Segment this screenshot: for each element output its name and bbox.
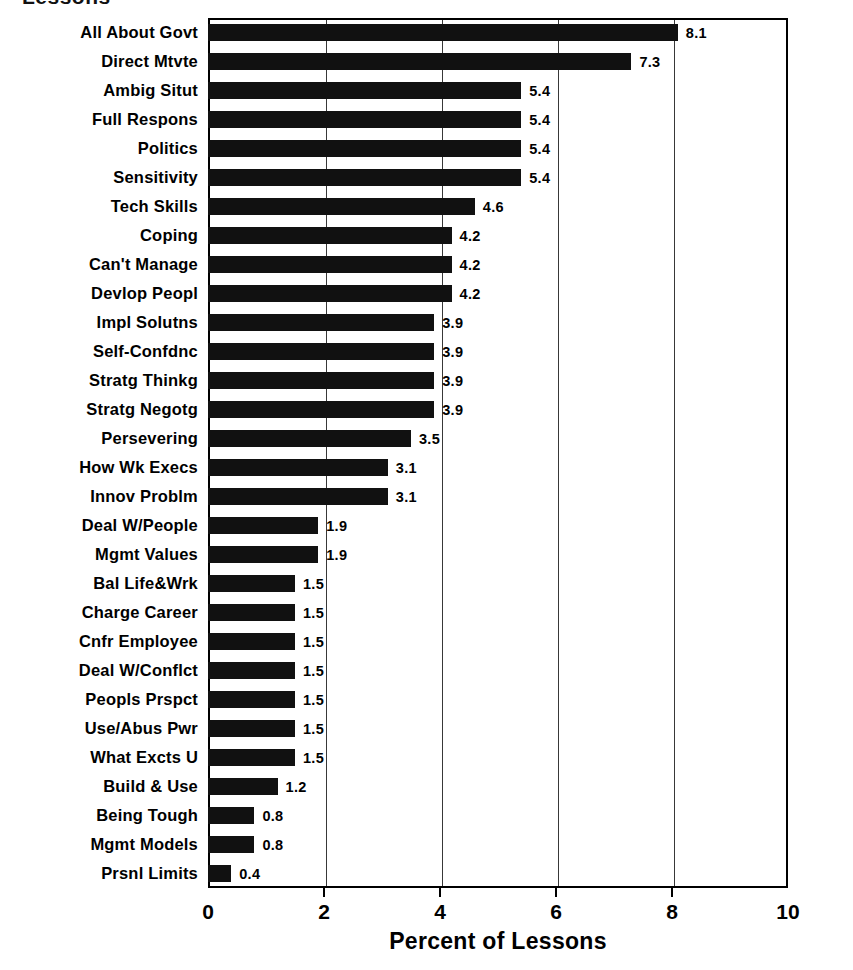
bar-row: Tech Skills4.6: [0, 192, 853, 221]
category-label: Mgmt Models: [0, 835, 198, 854]
bar-track: 1.5: [208, 569, 788, 598]
bar-track: 4.6: [208, 192, 788, 221]
bar-row: Impl Solutns3.9: [0, 308, 853, 337]
category-label: Build & Use: [0, 777, 198, 796]
bar-track: 3.5: [208, 424, 788, 453]
x-tick-label: 4: [434, 900, 446, 924]
bar-row: Sensitivity5.4: [0, 163, 853, 192]
bar-track: 8.1: [208, 18, 788, 47]
bar-track: 3.9: [208, 366, 788, 395]
bar-value-label: 8.1: [686, 25, 707, 41]
bar-value-label: 0.8: [262, 808, 283, 824]
bar: [208, 691, 295, 709]
bar: [208, 720, 295, 738]
bar-value-label: 5.4: [529, 170, 550, 186]
bar-track: 4.2: [208, 250, 788, 279]
bar-row: Charge Career1.5: [0, 598, 853, 627]
bar-track: 5.4: [208, 134, 788, 163]
bar-value-label: 5.4: [529, 83, 550, 99]
bar: [208, 285, 452, 303]
bar-value-label: 5.4: [529, 141, 550, 157]
bar: [208, 488, 388, 506]
bar-row: Deal W/People1.9: [0, 511, 853, 540]
x-tick-mark: [555, 888, 557, 897]
bar: [208, 807, 254, 825]
bar-value-label: 1.5: [303, 663, 324, 679]
bar-value-label: 1.5: [303, 605, 324, 621]
bar: [208, 140, 521, 158]
bar-value-label: 1.9: [326, 547, 347, 563]
category-label: Use/Abus Pwr: [0, 719, 198, 738]
bar-value-label: 1.5: [303, 750, 324, 766]
category-label: All About Govt: [0, 23, 198, 42]
bar: [208, 343, 434, 361]
bar-value-label: 4.6: [483, 199, 504, 215]
bar-value-label: 1.5: [303, 576, 324, 592]
category-label: Devlop Peopl: [0, 284, 198, 303]
category-label: Can't Manage: [0, 255, 198, 274]
x-tick-mark: [439, 888, 441, 897]
x-axis-title: Percent of Lessons: [208, 928, 788, 955]
bar-value-label: 1.5: [303, 721, 324, 737]
bar-track: 4.2: [208, 279, 788, 308]
bar-value-label: 1.2: [286, 779, 307, 795]
bar-row: Peopls Prspct1.5: [0, 685, 853, 714]
category-label: Full Respons: [0, 110, 198, 129]
bar-track: 1.5: [208, 598, 788, 627]
bar: [208, 604, 295, 622]
bar: [208, 372, 434, 390]
bar: [208, 633, 295, 651]
x-tick-mark: [671, 888, 673, 897]
bar: [208, 227, 452, 245]
bar-value-label: 3.9: [442, 344, 463, 360]
bar: [208, 517, 318, 535]
bar-value-label: 4.2: [460, 257, 481, 273]
category-label: Being Tough: [0, 806, 198, 825]
bar-value-label: 3.9: [442, 315, 463, 331]
bar: [208, 82, 521, 100]
bar-track: 1.5: [208, 743, 788, 772]
bar-row: Bal Life&Wrk1.5: [0, 569, 853, 598]
x-tick-label: 6: [550, 900, 562, 924]
bar-value-label: 3.5: [419, 431, 440, 447]
category-label: Direct Mtvte: [0, 52, 198, 71]
bar: [208, 53, 631, 71]
bar-row: Build & Use1.2: [0, 772, 853, 801]
bar-track: 5.4: [208, 163, 788, 192]
bar-row: Ambig Situt5.4: [0, 76, 853, 105]
bar-value-label: 4.2: [460, 228, 481, 244]
bar-row: Coping4.2: [0, 221, 853, 250]
category-label: Deal W/Conflct: [0, 661, 198, 680]
category-label: What Excts U: [0, 748, 198, 767]
bar-track: 3.1: [208, 482, 788, 511]
category-label: Coping: [0, 226, 198, 245]
bar: [208, 111, 521, 129]
bar-value-label: 3.1: [396, 489, 417, 505]
bar: [208, 24, 678, 42]
category-label: Prsnl Limits: [0, 864, 198, 883]
category-label: Mgmt Values: [0, 545, 198, 564]
bar-track: 3.1: [208, 453, 788, 482]
category-label: Self-Confdnc: [0, 342, 198, 361]
bar-row: Stratg Thinkg3.9: [0, 366, 853, 395]
x-tick-label: 10: [776, 900, 799, 924]
bar: [208, 662, 295, 680]
bar: [208, 256, 452, 274]
bar-value-label: 1.5: [303, 692, 324, 708]
bar: [208, 865, 231, 883]
bar: [208, 575, 295, 593]
bar-track: 1.5: [208, 685, 788, 714]
bar-track: 1.9: [208, 540, 788, 569]
bar-value-label: 3.1: [396, 460, 417, 476]
bar-row: Politics5.4: [0, 134, 853, 163]
bar-row: Use/Abus Pwr1.5: [0, 714, 853, 743]
bar-row: All About Govt8.1: [0, 18, 853, 47]
bar-track: 1.9: [208, 511, 788, 540]
bar-track: 1.5: [208, 627, 788, 656]
category-label: Peopls Prspct: [0, 690, 198, 709]
bar-row: Devlop Peopl4.2: [0, 279, 853, 308]
x-axis: 0246810: [208, 888, 788, 922]
category-label: Charge Career: [0, 603, 198, 622]
x-tick-label: 0: [202, 900, 214, 924]
bar-row: Mgmt Values1.9: [0, 540, 853, 569]
